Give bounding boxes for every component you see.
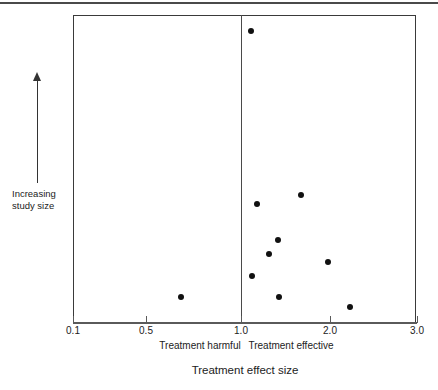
scatter-point xyxy=(249,273,255,279)
treatment-effective-label: Treatment effective xyxy=(248,340,333,351)
y-axis-caption: Increasing study size xyxy=(12,188,78,212)
x-axis-tick xyxy=(146,316,147,323)
x-axis-tick xyxy=(417,316,418,323)
null-effect-reference-line xyxy=(241,15,242,323)
x-axis-tick-label: 0.5 xyxy=(139,325,153,336)
scatter-point xyxy=(325,259,331,265)
x-axis-tick xyxy=(73,316,74,323)
scatter-point xyxy=(275,237,281,243)
x-axis-tick-label: 0.1 xyxy=(66,325,80,336)
x-axis-tick-label: 3.0 xyxy=(410,325,424,336)
funnel-plot-figure: 0.10.51.02.03.0 Increasing study size Tr… xyxy=(0,0,438,390)
treatment-harmful-label: Treatment harmful xyxy=(159,340,240,351)
x-axis-tick xyxy=(241,316,242,323)
y-axis-caption-line2: study size xyxy=(12,200,78,212)
scatter-point xyxy=(178,294,184,300)
x-axis-title: Treatment effect size xyxy=(192,364,299,376)
plot-frame xyxy=(73,15,416,323)
x-axis-line xyxy=(73,322,417,324)
scatter-point xyxy=(266,251,272,257)
scatter-point xyxy=(248,28,254,34)
x-axis-tick-label: 1.0 xyxy=(234,325,248,336)
page-top-rule xyxy=(0,2,438,4)
scatter-point xyxy=(276,294,282,300)
scatter-point xyxy=(254,201,260,207)
scatter-point xyxy=(347,304,353,310)
x-axis-tick-label: 2.0 xyxy=(323,325,337,336)
y-axis-caption-line1: Increasing xyxy=(12,188,78,200)
x-axis-tick xyxy=(330,316,331,323)
study-size-arrow-shaft-icon xyxy=(37,78,38,183)
scatter-point xyxy=(298,192,304,198)
